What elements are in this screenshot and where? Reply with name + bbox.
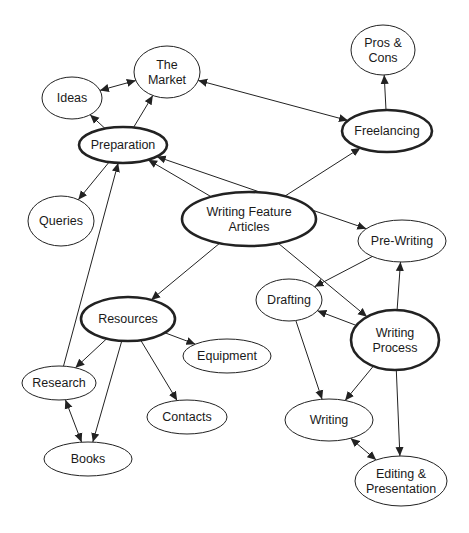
node-pros-label: Pros & xyxy=(364,36,402,50)
node-research[interactable]: Research xyxy=(22,366,96,400)
node-resources-label: Resources xyxy=(98,312,158,326)
node-wfa[interactable]: Writing FeatureArticles xyxy=(182,192,316,246)
edge-wfa-to-preparation xyxy=(148,160,211,197)
node-writing[interactable]: Writing xyxy=(285,399,373,441)
node-prewriting-label: Pre-Writing xyxy=(371,234,433,248)
node-ideas-label: Ideas xyxy=(57,91,88,105)
edge-writing-to-editing xyxy=(351,438,377,460)
node-preparation[interactable]: Preparation xyxy=(79,127,167,163)
edge-resources-to-books xyxy=(93,341,122,442)
node-pros[interactable]: Pros &Cons xyxy=(351,25,415,75)
node-wfa-label: Writing Feature xyxy=(206,205,291,219)
concept-map: IdeasTheMarketPros &ConsPreparationFreel… xyxy=(0,0,469,533)
node-equipment[interactable]: Equipment xyxy=(183,339,271,373)
edge-resources-to-contacts xyxy=(141,340,177,400)
node-editing-label: Presentation xyxy=(366,482,436,496)
edge-process-to-editing xyxy=(396,370,400,456)
node-contacts[interactable]: Contacts xyxy=(147,400,227,434)
edge-preparation-to-market xyxy=(134,96,153,128)
node-equipment-label: Equipment xyxy=(197,349,257,363)
edge-wfa-to-freelancing xyxy=(285,148,361,196)
node-prewriting[interactable]: Pre-Writing xyxy=(358,220,446,262)
edge-preparation-to-ideas xyxy=(90,115,105,129)
edge-drafting-to-writing xyxy=(296,321,322,400)
node-wfa-label: Articles xyxy=(229,220,270,234)
node-queries-label: Queries xyxy=(39,214,83,228)
node-editing[interactable]: Editing &Presentation xyxy=(355,456,447,506)
node-research-label: Research xyxy=(32,376,86,390)
node-preparation-label: Preparation xyxy=(91,138,156,152)
edge-process-to-prewriting xyxy=(397,262,400,310)
node-ideas[interactable]: Ideas xyxy=(42,77,102,119)
nodes-layer: IdeasTheMarketPros &ConsPreparationFreel… xyxy=(22,25,447,506)
node-editing-label: Editing & xyxy=(376,467,427,481)
edge-process-to-drafting xyxy=(317,311,356,326)
edge-resources-to-research xyxy=(75,339,106,368)
node-process-label: Process xyxy=(372,341,417,355)
edge-ideas-to-market xyxy=(100,81,136,91)
edge-research-to-books xyxy=(65,400,81,443)
node-drafting-label: Drafting xyxy=(267,293,311,307)
edge-process-to-writing xyxy=(345,366,373,400)
node-market-label: Market xyxy=(148,73,187,87)
node-pros-label: Cons xyxy=(368,51,397,65)
edge-resources-to-equipment xyxy=(165,333,196,345)
edge-preparation-to-queries xyxy=(78,162,109,200)
node-process[interactable]: WritingProcess xyxy=(351,310,439,370)
node-contacts-label: Contacts xyxy=(162,410,211,424)
node-freelancing[interactable]: Freelancing xyxy=(342,110,432,152)
node-drafting[interactable]: Drafting xyxy=(256,279,322,321)
node-writing-label: Writing xyxy=(310,413,349,427)
node-market-label: The xyxy=(156,58,178,72)
edge-market-to-freelancing xyxy=(198,80,348,120)
node-resources[interactable]: Resources xyxy=(81,297,175,341)
edge-freelancing-to-pros xyxy=(384,75,386,110)
node-queries[interactable]: Queries xyxy=(28,196,94,246)
node-market[interactable]: TheMarket xyxy=(134,46,200,98)
edge-wfa-to-resources xyxy=(151,243,219,300)
edge-prewriting-to-drafting xyxy=(315,257,373,287)
node-freelancing-label: Freelancing xyxy=(354,124,419,138)
node-books-label: Books xyxy=(71,452,106,466)
node-books[interactable]: Books xyxy=(44,442,132,476)
node-process-label: Writing xyxy=(376,326,415,340)
